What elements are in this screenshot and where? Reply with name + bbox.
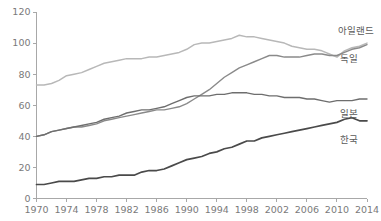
x-tick-label: 1986 bbox=[145, 204, 169, 215]
series-label: 독일 bbox=[340, 53, 358, 64]
y-tick-label: 100 bbox=[12, 37, 30, 48]
x-tick-label: 2006 bbox=[295, 204, 319, 215]
series-label: 한국 bbox=[340, 134, 358, 145]
x-tick-label: 1994 bbox=[205, 204, 229, 215]
x-tick-label: 1990 bbox=[175, 204, 199, 215]
x-tick-label: 1970 bbox=[24, 204, 48, 215]
y-tick-label: 40 bbox=[18, 131, 30, 142]
x-tick-label: 1982 bbox=[115, 204, 139, 215]
y-tick-label: 60 bbox=[18, 100, 30, 111]
series-label: 일본 bbox=[340, 108, 358, 119]
line-chart: 020406080100120 197019741978198219861990… bbox=[0, 0, 381, 221]
chart-background bbox=[0, 0, 381, 221]
series-label: 아일랜드 bbox=[338, 25, 374, 36]
x-tick-label: 1978 bbox=[84, 204, 108, 215]
x-tick-label: 2014 bbox=[355, 204, 379, 215]
y-tick-label: 0 bbox=[24, 193, 30, 204]
x-tick-label: 2002 bbox=[265, 204, 289, 215]
y-tick-label: 80 bbox=[18, 69, 30, 80]
y-tick-label: 20 bbox=[18, 162, 30, 173]
x-tick-label: 1998 bbox=[235, 204, 259, 215]
chart-canvas: 020406080100120 197019741978198219861990… bbox=[0, 0, 381, 221]
y-tick-label: 120 bbox=[12, 6, 30, 17]
x-tick-label: 2010 bbox=[325, 204, 349, 215]
x-tick-label: 1974 bbox=[54, 204, 78, 215]
